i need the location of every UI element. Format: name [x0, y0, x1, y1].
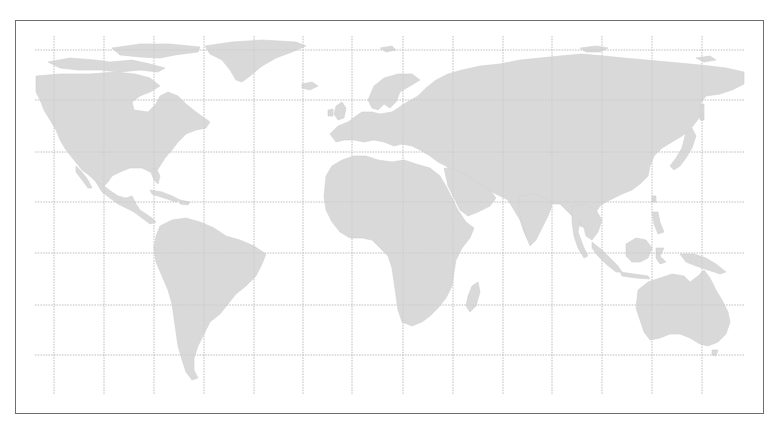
region-arctic-islands [112, 44, 200, 58]
region-cuba [150, 190, 180, 202]
land-masses [36, 40, 744, 380]
region-florida [150, 168, 160, 184]
region-arctic-islands-2 [48, 58, 165, 72]
region-central-america [96, 182, 156, 224]
region-north-america [36, 72, 210, 186]
region-hispaniola [180, 200, 190, 205]
region-philippines [652, 212, 664, 234]
region-borneo [626, 238, 652, 262]
region-greenland [205, 40, 306, 82]
region-taiwan [652, 196, 656, 202]
region-novaya-zemlya [580, 46, 608, 52]
region-java [620, 272, 650, 279]
region-svalbard [380, 46, 396, 52]
region-british-isles [334, 102, 346, 120]
region-new-siberian-islands [696, 56, 716, 62]
region-ireland [328, 109, 333, 116]
region-south-america [154, 218, 266, 380]
map-page [0, 0, 775, 426]
region-iceland [302, 82, 318, 90]
region-sumatra [592, 242, 622, 272]
world-map [0, 0, 775, 426]
region-sulawesi [656, 248, 666, 264]
region-australia [636, 270, 730, 346]
region-madagascar [466, 282, 480, 312]
